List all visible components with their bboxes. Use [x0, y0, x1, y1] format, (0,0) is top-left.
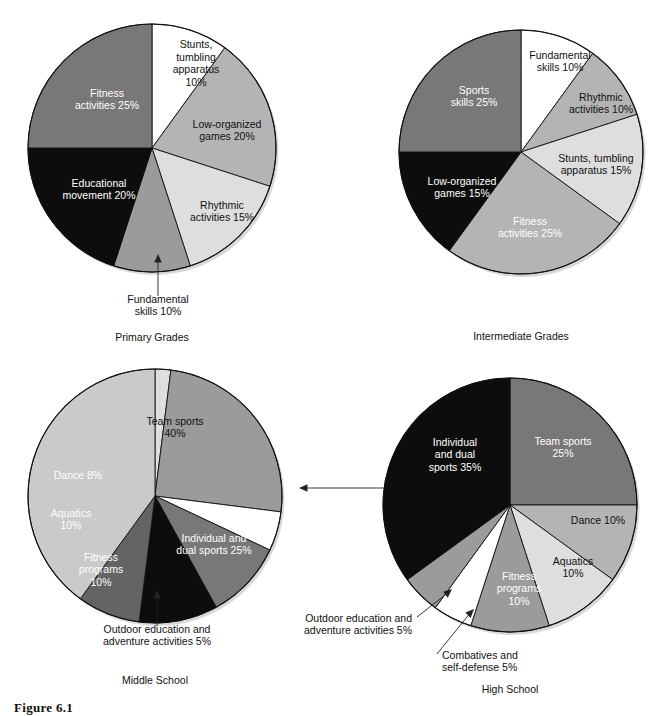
figure-caption: Figure 6.1: [14, 700, 73, 716]
callout-arrow-icon: [299, 484, 308, 492]
slice-label: Fundamentalskills 10%: [529, 49, 590, 74]
pie-slice: [155, 370, 282, 512]
slice-label: Educationalmovement 20%: [63, 177, 136, 202]
outdoor-education-callout-text: Outdoor education andadventure activitie…: [304, 612, 412, 637]
slice-label: Low-organizedgames 15%: [428, 175, 497, 200]
slice-label: Low-organizedgames 20%: [193, 118, 262, 143]
slice-label: Dance 10%: [571, 514, 625, 526]
slice-label: Dance 8%: [54, 469, 102, 481]
fundamental-skills-callout-text: Fundamentalskills 10%: [127, 293, 188, 318]
slice-label: Individual anddual sports 25%: [176, 532, 251, 557]
chart-title-middle-school: Middle School: [122, 674, 188, 686]
chart-title-primary-grades: Primary Grades: [115, 331, 189, 343]
combatives-callout-text: Combatives andself-defense 5%: [442, 649, 518, 674]
pie-chart-intermediate-grades: Fundamentalskills 10%Rhythmicactivities …: [399, 30, 646, 342]
slice-label: Individualand dualsports 35%: [429, 435, 482, 472]
outdoor-education-callout-text: Outdoor education andadventure activitie…: [103, 623, 211, 648]
pie-chart-high-school: Team sports25%Dance 10%Aquatics10%Fitnes…: [304, 378, 639, 695]
chart-title-high-school: High School: [482, 683, 539, 695]
pie-chart-primary-grades: Stunts,tumblingapparatus10%Low-organized…: [28, 24, 279, 343]
chart-title-intermediate-grades: Intermediate Grades: [473, 330, 569, 342]
slice-label: Stunts, tumblingapparatus 15%: [558, 152, 633, 177]
